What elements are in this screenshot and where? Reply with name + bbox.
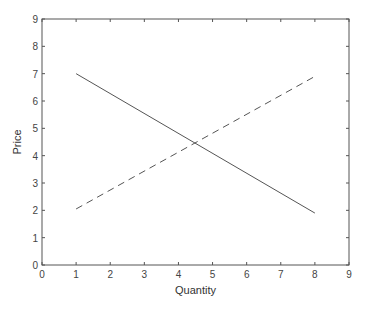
x-tick-label: 4 (176, 269, 182, 280)
y-tick-label: 3 (32, 178, 38, 189)
data-series (76, 74, 315, 213)
y-tick-label: 5 (32, 123, 38, 134)
x-tick-label: 1 (73, 269, 79, 280)
x-tick-label: 3 (142, 269, 148, 280)
x-tick-label: 6 (244, 269, 250, 280)
plot-frame (42, 19, 349, 265)
x-tick-label: 9 (346, 269, 352, 280)
y-axis-label: Price (11, 129, 23, 154)
y-tick-label: 9 (32, 14, 38, 25)
y-tick-label: 0 (32, 260, 38, 271)
x-tick-label: 7 (278, 269, 284, 280)
x-tick-label: 8 (312, 269, 318, 280)
supply-line (76, 76, 315, 209)
y-tick-label: 7 (32, 69, 38, 80)
x-tick-label: 2 (107, 269, 113, 280)
y-tick-label: 2 (32, 205, 38, 216)
x-tick-label: 0 (39, 269, 45, 280)
demand-line (76, 74, 315, 213)
axis-ticks (42, 19, 349, 265)
y-tick-label: 6 (32, 96, 38, 107)
y-tick-label: 8 (32, 41, 38, 52)
y-tick-label: 4 (32, 151, 38, 162)
tick-labels: 01234567890123456789 (32, 14, 352, 280)
y-tick-label: 1 (32, 233, 38, 244)
chart: 01234567890123456789 Quantity Price (0, 0, 369, 309)
x-tick-label: 5 (210, 269, 216, 280)
x-axis-label: Quantity (175, 284, 216, 296)
